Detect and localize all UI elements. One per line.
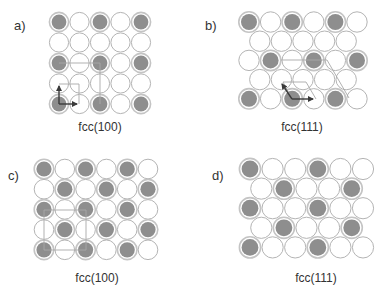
atom-empty: [262, 198, 283, 219]
panel-a-label: a): [14, 18, 26, 33]
atom-empty: [111, 33, 130, 52]
atom-filled: [120, 161, 135, 176]
panel-b: b) fcc(111): [205, 12, 367, 134]
atom-filled: [57, 222, 72, 237]
atom-empty: [352, 158, 373, 179]
atom-empty: [97, 200, 117, 220]
atom-filled: [93, 15, 108, 30]
atom-filled: [284, 14, 300, 30]
panel-c-label: c): [8, 168, 19, 183]
atom-filled: [241, 91, 257, 107]
atom-empty: [296, 217, 317, 238]
atom-empty: [111, 12, 130, 31]
atom-empty: [293, 31, 313, 51]
atom-empty: [319, 178, 340, 199]
atom-filled: [120, 202, 135, 217]
atom-filled: [99, 222, 114, 237]
atom-empty: [239, 50, 259, 70]
atom-empty: [260, 12, 280, 32]
atom-empty: [90, 33, 109, 52]
atom-empty: [296, 178, 317, 199]
atom-empty: [111, 74, 130, 93]
atom-empty: [336, 31, 356, 51]
atom-empty: [251, 217, 272, 238]
atom-empty: [347, 89, 367, 109]
atom-empty: [325, 50, 345, 70]
atom-filled: [276, 219, 293, 236]
atom-empty: [262, 237, 283, 258]
atom-filled: [327, 91, 343, 107]
atom-empty: [70, 12, 89, 31]
atom-filled: [349, 52, 365, 68]
atom-empty: [34, 179, 54, 199]
atom-filled: [343, 219, 360, 236]
atom-empty: [117, 220, 137, 240]
atom-empty: [131, 74, 150, 93]
atom-empty: [111, 53, 130, 72]
atom-empty: [271, 69, 291, 89]
atom-filled: [242, 200, 259, 217]
atom-empty: [352, 237, 373, 258]
atom-filled: [327, 14, 343, 30]
atom-empty: [49, 33, 68, 52]
atom-empty: [262, 158, 283, 179]
atom-empty: [352, 198, 373, 219]
panel-b-caption: fcc(111): [281, 120, 323, 134]
atom-empty: [131, 33, 150, 52]
panel-d-caption: fcc(111): [295, 271, 337, 285]
atom-empty: [138, 240, 158, 260]
atom-empty: [330, 158, 351, 179]
atom-filled: [134, 15, 149, 30]
atom-empty: [76, 179, 96, 199]
atom-empty: [271, 31, 291, 51]
atom-filled: [140, 222, 155, 237]
atom-filled: [309, 200, 326, 217]
atom-filled: [99, 182, 114, 197]
atom-empty: [250, 69, 270, 89]
panel-c: c) fcc(100): [8, 159, 158, 285]
panel-d-atom-lattice: [239, 158, 373, 258]
atom-filled: [276, 180, 293, 197]
surface-lattice-figure: a) fcc(100) b) fcc(111) c) fcc(100) d) f…: [0, 0, 382, 293]
atom-empty: [70, 74, 89, 93]
panel-c-atom-lattice: [34, 159, 158, 259]
atom-empty: [285, 198, 306, 219]
atom-empty: [97, 159, 117, 179]
atom-empty: [330, 237, 351, 258]
panel-b-label: b): [205, 18, 217, 33]
atom-empty: [260, 89, 280, 109]
atom-filled: [120, 242, 135, 257]
atom-empty: [285, 158, 306, 179]
atom-filled: [140, 182, 155, 197]
atom-filled: [309, 161, 326, 178]
panel-d: d) fcc(111): [212, 158, 374, 285]
panel-a-caption: fcc(100): [78, 120, 121, 134]
atom-empty: [347, 12, 367, 32]
atom-empty: [138, 159, 158, 179]
panel-d-label: d): [212, 168, 224, 183]
atom-empty: [55, 200, 75, 220]
atom-filled: [242, 239, 259, 256]
atom-filled: [263, 52, 279, 68]
atom-filled: [52, 15, 67, 30]
atom-empty: [251, 178, 272, 199]
atom-empty: [304, 12, 324, 32]
atom-empty: [314, 31, 334, 51]
atom-filled: [343, 180, 360, 197]
atom-filled: [241, 14, 257, 30]
atom-empty: [330, 198, 351, 219]
atom-empty: [314, 69, 334, 89]
atom-empty: [117, 179, 137, 199]
atom-empty: [138, 200, 158, 220]
atom-empty: [111, 94, 130, 113]
atom-empty: [70, 33, 89, 52]
atom-empty: [55, 159, 75, 179]
atom-empty: [293, 69, 313, 89]
atom-empty: [319, 217, 340, 238]
atom-empty: [285, 237, 306, 258]
atom-empty: [250, 31, 270, 51]
atom-filled: [78, 161, 93, 176]
atom-filled: [57, 182, 72, 197]
atom-filled: [36, 161, 51, 176]
atom-filled: [134, 97, 149, 112]
